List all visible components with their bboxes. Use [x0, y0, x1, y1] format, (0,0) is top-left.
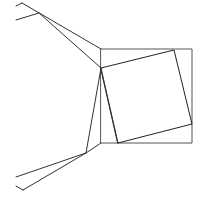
diagram-canvas	[0, 0, 202, 201]
top-connector-segment-2	[16, 13, 39, 20]
bottom-connector-lines	[16, 68, 118, 190]
bottom-connector-segment-5	[16, 186, 23, 190]
top-connector-segment-1	[39, 13, 101, 68]
bottom-connector-segment-1	[86, 143, 101, 153]
top-connector-segment-3	[16, 3, 22, 6]
bottom-connector-segment-0	[86, 68, 101, 153]
top-connector-lines	[16, 3, 101, 68]
bottom-connector-segment-3	[101, 68, 118, 143]
geometry-drawing	[0, 0, 202, 201]
top-connector-segment-0	[22, 3, 101, 49]
